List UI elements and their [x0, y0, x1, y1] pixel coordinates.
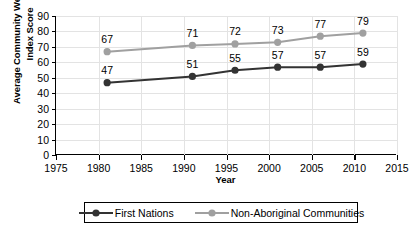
- data-point-marker[interactable]: [104, 48, 111, 55]
- legend-label: Non-Aboriginal Communities: [231, 207, 365, 219]
- data-point-marker[interactable]: [189, 72, 196, 79]
- x-axis-tick-label: 1985: [121, 162, 161, 174]
- x-axis-tick: [56, 155, 57, 160]
- y-axis-tick-label: 50: [27, 72, 49, 84]
- y-axis-title-line-1: Average Community Well-being: [11, 0, 24, 114]
- data-point-marker[interactable]: [274, 38, 281, 45]
- x-axis-tick-label: 2000: [249, 162, 289, 174]
- data-point-label: 57: [305, 49, 335, 61]
- line-chart: Average Community Well-being Index Score…: [0, 0, 410, 230]
- x-axis-tick: [227, 155, 228, 160]
- legend-item-first-nations[interactable]: First Nations: [78, 207, 174, 219]
- data-point-label: 73: [263, 24, 293, 36]
- x-axis-tick: [99, 155, 100, 160]
- plot-area: 197519801985199019952000200520102015 475…: [55, 16, 396, 156]
- data-point-label: 55: [220, 52, 250, 64]
- data-point-marker[interactable]: [231, 40, 238, 47]
- x-axis-tick-label: 1975: [36, 162, 76, 174]
- data-point-label: 51: [177, 58, 207, 70]
- data-point-marker[interactable]: [317, 63, 324, 70]
- data-point-marker[interactable]: [274, 63, 281, 70]
- x-axis-tick: [397, 155, 398, 160]
- y-axis-tick-label: 20: [27, 118, 49, 130]
- data-point-label: 77: [305, 18, 335, 30]
- x-axis-tick: [184, 155, 185, 160]
- data-point-marker[interactable]: [359, 60, 366, 67]
- data-point-label: 79: [348, 15, 378, 27]
- y-axis-tick-label: 30: [27, 103, 49, 115]
- y-axis-tick-label: 0: [27, 149, 49, 161]
- data-point-marker[interactable]: [189, 41, 196, 48]
- legend-marker-icon: [194, 207, 230, 219]
- x-axis-tick-label: 2005: [292, 162, 332, 174]
- x-axis-tick: [354, 155, 355, 160]
- legend-marker-icon: [78, 207, 114, 219]
- y-axis-tick-label: 80: [27, 25, 49, 37]
- x-axis-title: Year: [55, 174, 396, 185]
- data-point-label: 47: [92, 64, 122, 76]
- x-axis-tick-label: 1990: [164, 162, 204, 174]
- x-axis-tick: [141, 155, 142, 160]
- y-axis-tick-label: 40: [27, 87, 49, 99]
- data-point-marker[interactable]: [359, 29, 366, 36]
- x-axis-tick-label: 2015: [377, 162, 410, 174]
- data-point-marker[interactable]: [104, 79, 111, 86]
- legend-item-non-aboriginal-communities[interactable]: Non-Aboriginal Communities: [194, 207, 365, 219]
- y-axis-tick-label: 60: [27, 56, 49, 68]
- x-axis-tick: [269, 155, 270, 160]
- x-axis-tick-label: 2010: [334, 162, 374, 174]
- y-axis-tick-label: 10: [27, 134, 49, 146]
- data-point-label: 57: [263, 49, 293, 61]
- y-axis-tick-label: 70: [27, 41, 49, 53]
- x-axis-tick-label: 1995: [207, 162, 247, 174]
- x-axis-tick-label: 1980: [79, 162, 119, 174]
- data-point-label: 59: [348, 46, 378, 58]
- data-point-marker[interactable]: [317, 32, 324, 39]
- data-point-label: 67: [92, 33, 122, 45]
- y-axis-tick-label: 90: [27, 10, 49, 22]
- data-point-label: 71: [177, 27, 207, 39]
- data-point-label: 72: [220, 25, 250, 37]
- chart-legend: First Nations Non-Aboriginal Communities: [84, 202, 358, 223]
- gridline-vertical: [397, 16, 398, 156]
- x-axis-tick: [312, 155, 313, 160]
- legend-label: First Nations: [115, 207, 174, 219]
- data-point-marker[interactable]: [231, 66, 238, 73]
